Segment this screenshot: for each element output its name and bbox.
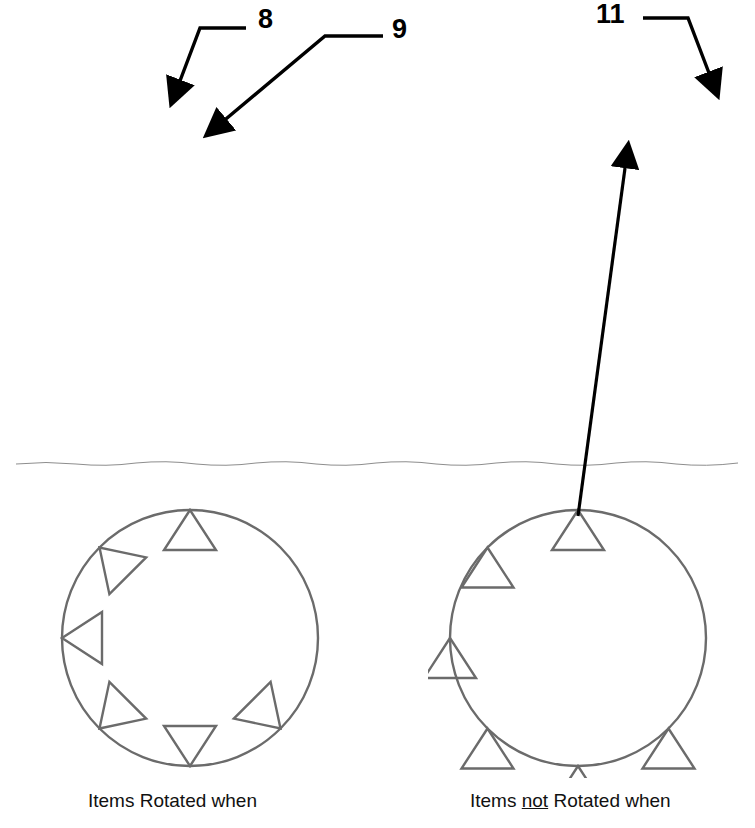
caption-not-rotated-prefix: Items [470,790,522,811]
figure-not-rotated-example [428,498,728,778]
callout-label-8: 8 [258,6,273,33]
rotated-item-6 [234,682,299,747]
new-tab-button[interactable]: + [187,184,206,199]
close-array-button[interactable]: ✕ Close Array [703,115,734,157]
drawing-canvas[interactable]: [-][Top][2D Wireframe] [16,200,738,458]
not-rotated-item-4 [462,729,514,769]
undo-icon[interactable]: ↶ [163,67,177,81]
new-icon[interactable] [49,66,65,82]
fill-angle-icon: ◐ [94,150,107,163]
caption-not-rotated-suffix: Rotated when [548,790,671,811]
ribbon-panel-properties: Associative + Base Point [538,104,699,182]
ribbon-tab-annotate[interactable]: Annotate [123,87,175,104]
application-logo-letter: A [25,66,35,83]
file-tab-drawing[interactable]: polar array 13-8* ✕ [84,184,185,199]
ribbon-display-icon [687,95,693,101]
ribbon-tab-addins[interactable]: Add-ins [360,87,406,104]
associative-label: Associative [545,138,583,147]
rotated-item-3 [62,612,102,664]
saveas-icon[interactable] [125,66,141,82]
ribbon-options-dropdown[interactable]: ▾ [683,91,703,104]
not-rotated-item-1 [552,510,604,550]
levels-between-icon: ▦ [396,131,409,144]
angle-between-icon: ∟ [94,131,107,144]
items-icon: ⚙ [94,112,107,125]
rotate-items-icon [653,109,683,135]
base-point-icon: + [601,108,631,134]
autocad-window-screenshot: A ↶ ↷ ▾ Home Insert Annotate Parametric … [16,62,738,472]
save-icon[interactable] [106,66,122,82]
redo-icon[interactable]: ↷ [180,67,194,81]
rotate-items-label: Rotate Items [647,138,690,147]
ribbon-tab-output[interactable]: Output [318,87,361,104]
ribbon-tab-a360[interactable]: A360 [407,87,443,104]
array-items-group [255,230,484,458]
ribbon-panel-items: ⚙ Items: 6 ∟ Between: 45 ◐ Fill: 225 [85,104,236,182]
levels-count-icon: ▦ [396,112,409,125]
not-rotated-item-5 [552,766,604,778]
items-fill-row: ◐ Fill: 225 [94,148,251,165]
levels-between-row: ▦ Between: 1.000 [396,129,550,146]
close-x-icon: ✕ [710,115,728,137]
panel-label-type: Type [16,168,84,182]
items-count-row: ⚙ Items: 6 [94,110,251,127]
close-icon[interactable]: ✕ [165,186,172,198]
center-grip[interactable] [372,347,381,356]
ribbon-tab-array-creation[interactable]: Array Creation [592,86,673,104]
open-icon[interactable] [68,66,84,82]
rows-count-label: Rows: [261,113,310,123]
qat-dropdown-icon[interactable]: ▾ [198,69,203,80]
caption-rotated-prefix: Items [88,790,140,811]
levels-count-row: ▦ Levels: 1 [396,110,550,127]
file-tab-bar: Start polar array 13-8* ✕ + [16,183,738,200]
associative-button[interactable]: Associative [538,104,590,164]
preview-icon[interactable] [87,66,103,82]
levels-between-label: Between: [412,132,461,142]
base-point-button[interactable]: + Base Point [590,104,642,164]
file-tab-start[interactable]: Start [38,184,82,199]
array-item-4[interactable] [270,387,342,458]
caption-not-rotated-emphasis: not [522,790,548,811]
rows-total-label: Total: [261,151,310,161]
not-rotated-item-6 [643,729,695,769]
array-type-button[interactable]: Polar [20,117,80,155]
rows-between-label: Between: [261,132,310,142]
file-tab-drawing-label: polar array 13-8* [97,186,160,198]
callout-label-11: 11 [596,1,625,28]
array-item-5[interactable] [348,430,406,458]
items-fill-label: Fill: [110,151,162,161]
close-array-label-line2: Array [709,148,728,157]
ribbon-tab-view[interactable]: View [235,87,269,104]
levels-total-label: Total: [412,151,461,161]
item-grip-top[interactable] [372,248,381,257]
ribbon-panel-rows: ☰ Rows: 1 ☰ Between: 1.125 ☰ Total: [236,104,387,182]
array-item-3[interactable] [255,323,299,381]
rotate-items-button[interactable]: Rotate Items [642,104,694,164]
not-rotated-item-2 [462,548,514,588]
rotated-item-1 [164,510,216,550]
rows-count-icon: ☰ [245,112,258,125]
ribbon-tab-featured-apps[interactable]: Featured Apps [516,87,592,104]
file-tab-start-label: Start [51,186,69,198]
ribbon-tab-parametric[interactable]: Parametric [175,87,235,104]
array-item-6[interactable] [412,387,484,458]
rows-count-row: ☰ Rows: 1 [245,110,399,127]
associative-icon [549,109,579,135]
caption-not-rotated: Items not Rotated when [470,790,671,812]
ribbon-tab-express-tools[interactable]: Express Tools [443,87,516,104]
panel-label-rows[interactable]: Rows ▾ [236,168,386,182]
plus-icon: + [194,186,199,198]
ribbon-tab-insert[interactable]: Insert [85,87,123,104]
print-icon[interactable] [144,66,160,82]
ribbon-panel-levels: ▦ Levels: 1 ▦ Between: 1.000 ▦ Total: [387,104,538,182]
application-menu-button[interactable]: A [16,62,44,86]
levels-total-row: ▦ Total: 1.000 [396,148,550,165]
ribbon-tab-manage[interactable]: Manage [270,87,318,104]
array-type-label: Polar [40,145,60,155]
figure-rotated-example [40,498,340,778]
array-path-circle [255,230,499,458]
rotated-item-2 [81,529,146,594]
rows-between-icon: ☰ [245,131,258,144]
items-count-label: Items: [110,113,162,123]
ribbon-tab-home[interactable]: Home [46,87,85,104]
